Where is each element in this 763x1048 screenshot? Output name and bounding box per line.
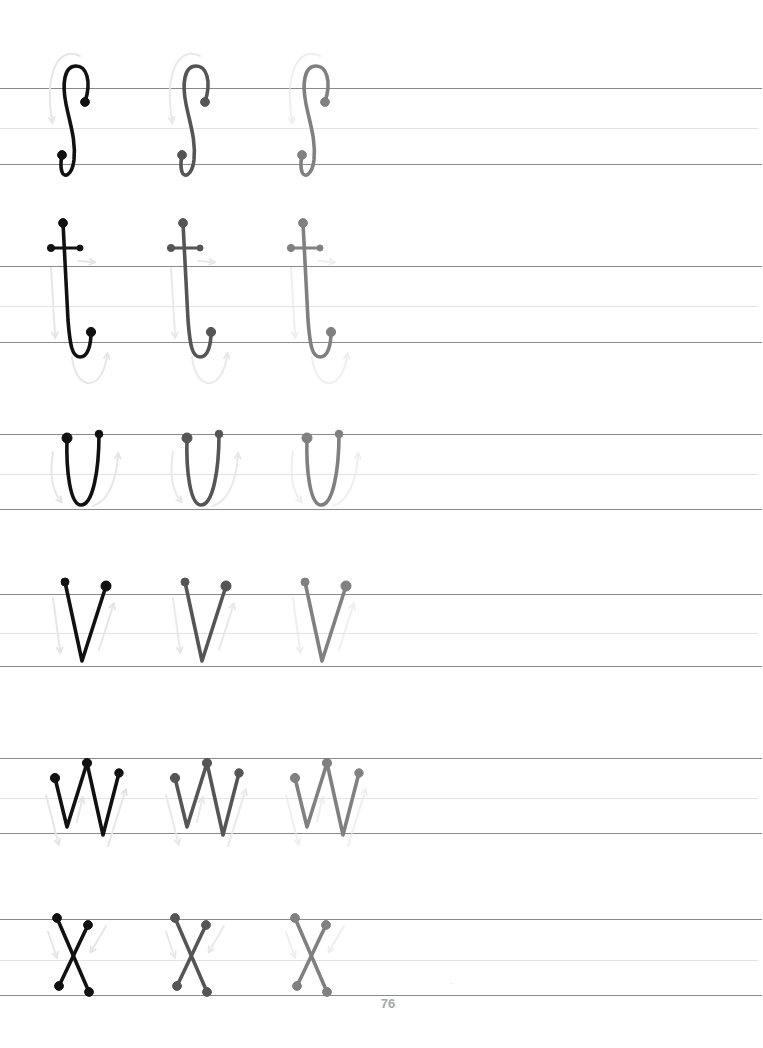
paper-speck — [451, 983, 452, 984]
trace-letter-t-light — [287, 219, 335, 357]
trace-letter-x-light — [291, 914, 332, 997]
trace-letter-u-light — [302, 430, 343, 505]
trace-letter-t-medium — [167, 219, 215, 357]
trace-letter-v-light — [301, 578, 351, 661]
stroke-direction-arrow-icon — [173, 598, 233, 650]
trace-letter-x-medium — [171, 914, 212, 997]
row-letter-u — [52, 430, 358, 506]
stroke-direction-arrow-icon — [53, 598, 113, 650]
trace-letter-w-medium — [170, 758, 243, 835]
stroke-direction-arrow-icon — [51, 261, 107, 383]
trace-letter-s-light — [298, 66, 330, 175]
stroke-direction-arrow-icon — [171, 261, 227, 383]
row-letter-x — [48, 914, 344, 997]
letter-tracing-area — [0, 0, 763, 1048]
trace-letter-v-dark — [61, 578, 111, 661]
stroke-direction-arrow-icon — [291, 261, 347, 383]
trace-letter-v-medium — [181, 578, 231, 661]
page-number: 76 — [370, 996, 406, 1011]
trace-letter-s-medium — [178, 66, 210, 175]
stroke-direction-arrow-icon — [52, 452, 118, 506]
stroke-direction-arrow-icon — [292, 452, 358, 506]
trace-letter-u-medium — [182, 430, 223, 505]
trace-letter-w-light — [290, 758, 363, 835]
trace-letter-x-dark — [53, 914, 94, 997]
trace-letter-t-dark — [47, 219, 95, 357]
worksheet-page: 76 — [0, 0, 763, 1048]
stroke-direction-arrow-icon — [293, 598, 353, 650]
row-letter-s — [50, 54, 330, 175]
row-letter-w — [46, 758, 365, 846]
trace-letter-u-dark — [62, 430, 103, 505]
row-letter-t — [47, 219, 347, 384]
row-letter-v — [53, 578, 353, 661]
stroke-direction-arrow-icon — [172, 452, 238, 506]
trace-letter-s-dark — [58, 66, 90, 175]
trace-letter-w-dark — [50, 758, 123, 835]
